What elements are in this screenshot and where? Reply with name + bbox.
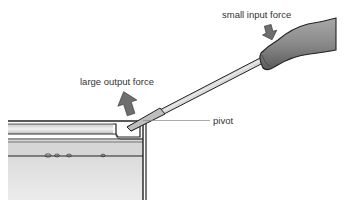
tin-lid-rim <box>8 124 113 134</box>
input-force-arrow-icon <box>260 23 278 41</box>
pivot-label: pivot <box>213 116 233 126</box>
tin-band <box>8 140 143 156</box>
output-force-arrow-icon <box>114 89 140 118</box>
paint-tin <box>8 121 146 200</box>
output-force-label: large output force <box>80 77 154 87</box>
input-force-label: small input force <box>222 10 291 20</box>
lever-diagram <box>0 0 346 207</box>
